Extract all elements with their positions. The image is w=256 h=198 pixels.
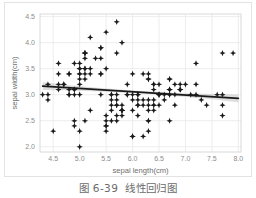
- y-tick-label: 3.5: [25, 65, 35, 72]
- x-tick-label: 4.5: [48, 155, 58, 162]
- figure-caption: 图 6-39线性回归图: [0, 180, 256, 195]
- y-tick-label: 4.0: [25, 39, 35, 46]
- regression-scatter-chart: 4.55.05.56.06.57.07.58.0 2.02.53.03.54.0…: [5, 3, 251, 176]
- y-tick-label: 2.5: [25, 117, 35, 124]
- figure-card: 4.55.05.56.06.57.07.58.0 2.02.53.03.54.0…: [4, 2, 252, 177]
- caption-number: 图 6-39: [79, 182, 119, 194]
- x-tick-label: 5.5: [101, 155, 111, 162]
- x-tick-label: 6.5: [154, 155, 164, 162]
- figure-container: 4.55.05.56.06.57.07.58.0 2.02.53.03.54.0…: [0, 0, 256, 198]
- y-tick-label: 3.0: [25, 91, 35, 98]
- y-axis-title: sepal width(cm): [10, 56, 19, 110]
- plot-background: [5, 3, 251, 176]
- y-tick-label: 2.0: [25, 143, 35, 150]
- x-tick-label: 6.0: [128, 155, 138, 162]
- x-tick-label: 8.0: [233, 155, 243, 162]
- x-tick-label: 7.0: [181, 155, 191, 162]
- x-tick-label: 7.5: [207, 155, 217, 162]
- x-axis-title: sepal length(cm): [112, 166, 169, 175]
- caption-title: 线性回归图: [125, 182, 177, 194]
- x-tick-label: 5.0: [75, 155, 85, 162]
- y-tick-label: 4.5: [25, 13, 35, 20]
